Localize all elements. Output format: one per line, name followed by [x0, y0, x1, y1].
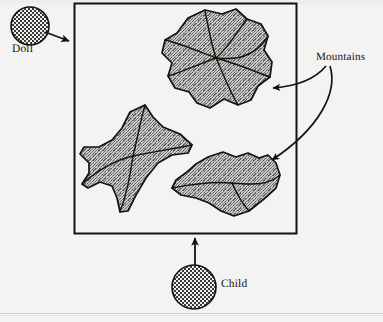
mountain-left [80, 105, 192, 212]
doll-marker [11, 7, 49, 45]
mountain-bottom [172, 152, 280, 216]
child-marker [172, 265, 216, 309]
arrow-mountains-to-top-mountain [273, 66, 326, 88]
child-label: Child [221, 278, 247, 291]
mountains-label: Mountains [316, 51, 365, 64]
arrow-mountains-to-bottom-mountain [272, 66, 332, 160]
arrow-doll-to-frame [45, 32, 69, 41]
mountain-top [162, 9, 272, 108]
doll-label: Doll [12, 43, 33, 56]
diagram-canvas [0, 0, 383, 322]
sandtray-diagram: Doll Child Mountains [0, 0, 383, 322]
